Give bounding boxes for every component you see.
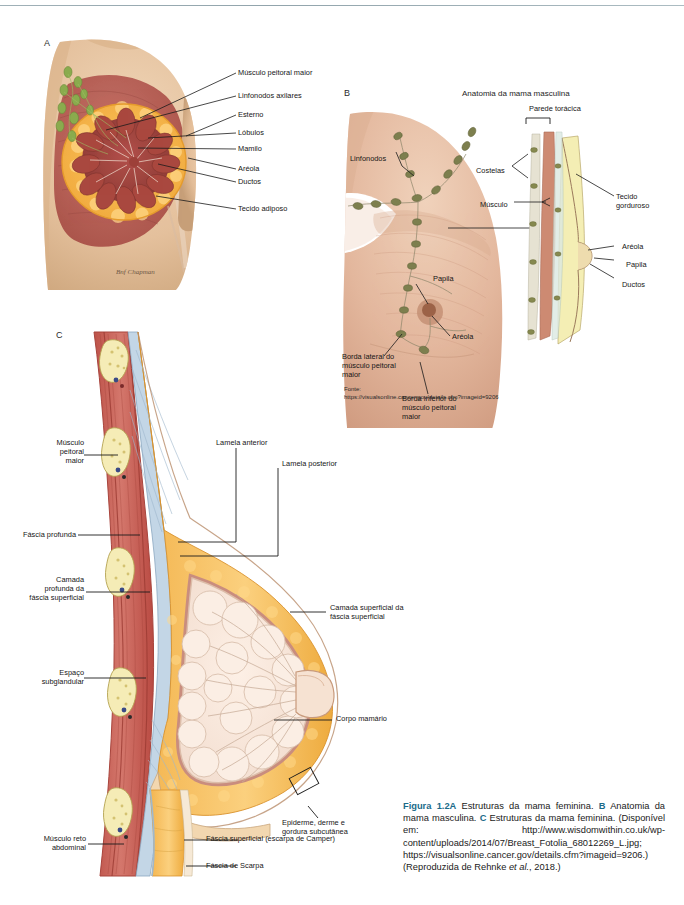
label-areola-inset: Aréola [622, 242, 643, 251]
chest-wall-bracket [526, 118, 550, 124]
label-pectoral-major: Músculo peitoral maior [238, 68, 312, 77]
label-axillary-lymph-nodes: Linfonodos axilares [238, 91, 302, 100]
label-posterior-lamella: Lamela posterior [282, 459, 337, 468]
label-muscle-b: Músculo [480, 200, 508, 209]
caption-text-a: Estruturas da mama feminina. [456, 801, 598, 811]
panel-c-female-sagittal: C [40, 320, 430, 885]
panel-a-female-breast: A [38, 38, 338, 290]
panel-b-title: Anatomia da mama masculina [462, 89, 570, 98]
label-anterior-lamella: Lamela anterior [216, 438, 267, 447]
caption-italic-ref: et al. [509, 862, 529, 872]
label-fatty-tissue: Tecido gorduroso [616, 192, 649, 210]
papilla-b [422, 303, 436, 317]
label-areola: Aréola [238, 164, 259, 173]
label-ducts-inset: Ductos [622, 280, 645, 289]
label-ducts: Ductos [238, 177, 261, 186]
label-papilla-inset: Papila [626, 260, 647, 269]
label-subglandular-space-c: Espaço subglandular [10, 668, 84, 686]
label-superficial-layer-c: Camada superficial da fáscia superficial [330, 603, 404, 621]
panel-b-letter: B [344, 88, 350, 98]
label-mammary-body: Corpo mamário [336, 714, 387, 723]
caption-figure-number: Figura 1.2A [403, 801, 456, 811]
label-papilla-b: Papila [433, 274, 454, 283]
label-sternum: Esterno [238, 110, 263, 119]
caption-text-d: , 2018.) [529, 862, 561, 872]
figure-page: A [0, 0, 684, 905]
label-adipose-tissue: Tecido adiposo [238, 204, 287, 213]
label-lobules: Lóbulos [238, 128, 264, 137]
label-scarpa-fascia-c: Fáscia de Scarpa [206, 861, 264, 870]
label-superficial-fascia-c: Fáscia superficial (escarpa de Camper) [206, 834, 335, 843]
label-deep-fascia-c: Fáscia profunda [0, 530, 76, 539]
label-areola-b: Aréola [452, 332, 473, 341]
label-ribs: Costelas [476, 166, 505, 175]
label-nipple: Mamilo [238, 144, 262, 153]
abdominal-fat [150, 790, 184, 876]
label-chest-wall: Parede torácica [529, 104, 581, 113]
label-pectoral-muscle-c: Músculo peitoral maior [12, 438, 84, 466]
panel-b-inset [512, 118, 614, 344]
figure-caption: Figura 1.2A Estruturas da mama feminina.… [403, 800, 665, 873]
label-lymph-nodes-b: Linfonodos [350, 154, 386, 163]
label-deep-layer-c: Camada profunda da fáscia superficial [0, 575, 84, 603]
page-top-rule [0, 5, 684, 6]
label-rectus-abdominis-c: Músculo reto abdominal [8, 834, 86, 852]
